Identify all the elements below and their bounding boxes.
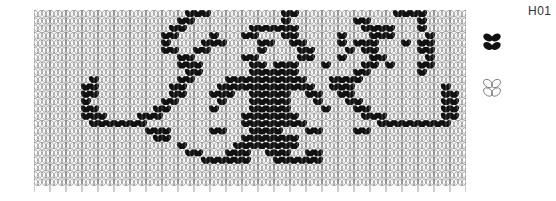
legend-filled-stitch-icon bbox=[482, 32, 502, 52]
knitting-chart-grid bbox=[34, 10, 466, 186]
legend-empty-stitch-icon bbox=[482, 78, 502, 98]
chart-code-label: H01 bbox=[528, 4, 552, 18]
